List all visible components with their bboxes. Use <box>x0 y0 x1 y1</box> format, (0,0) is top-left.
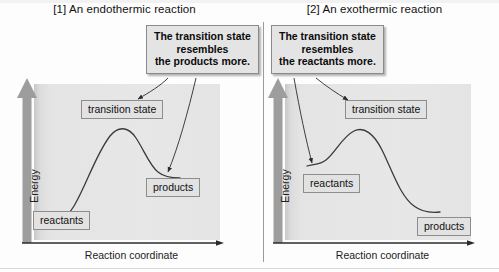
panel-title-exothermic: [2] An exothermic reaction <box>250 3 499 15</box>
energy-label-wrap: Energy <box>14 120 40 180</box>
tag-transition-state-endothermic: transition state <box>81 100 163 119</box>
x-axis-label-exothermic: Reaction coordinate <box>250 249 499 261</box>
callout-line-1: The transition state <box>154 30 251 43</box>
tag-reactants-endothermic: reactants <box>33 211 90 230</box>
callout-line-1: The transition state <box>279 30 376 43</box>
y-axis-label-endothermic: Energy <box>28 156 40 216</box>
callout-line-2: resembles <box>279 43 376 56</box>
callout-endothermic: The transition state resembles the produ… <box>146 25 259 74</box>
callout-exothermic: The transition state resembles the react… <box>271 25 384 74</box>
energy-diagram-figure: [1] An endothermic reaction Energy React… <box>0 0 499 272</box>
tag-transition-state-exothermic: transition state <box>345 100 427 119</box>
callout-line-3: the reactants more. <box>279 55 376 68</box>
tag-reactants-exothermic: reactants <box>303 174 360 193</box>
y-axis-label-exothermic: Energy <box>279 156 291 216</box>
callout-line-2: resembles <box>154 43 251 56</box>
energy-label-wrap: Energy <box>265 120 291 180</box>
tag-products-endothermic: products <box>146 178 200 197</box>
tag-products-exothermic: products <box>417 217 471 236</box>
x-axis-arrow-exothermic <box>273 240 475 248</box>
x-axis-arrow-endothermic <box>22 240 224 248</box>
panel-title-endothermic: [1] An endothermic reaction <box>0 3 249 15</box>
callout-line-3: the products more. <box>154 55 251 68</box>
x-axis-label-endothermic: Reaction coordinate <box>0 249 249 261</box>
